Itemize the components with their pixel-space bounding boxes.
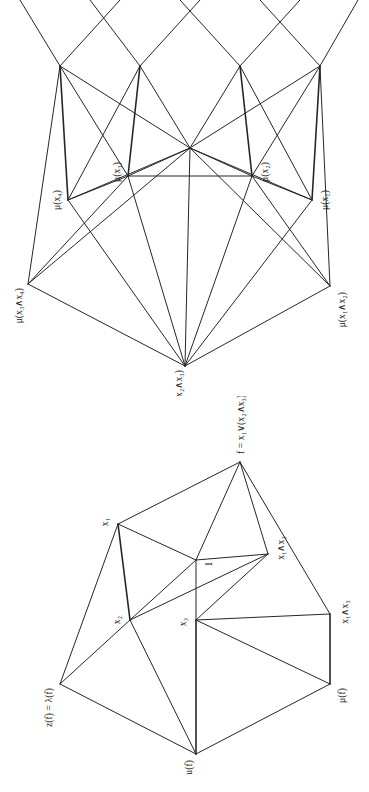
figure-function-lattice: z(f) = λ(f) u(f) μ(f) x₂ x₃ 1 x₁ x₁∧x₂ x… — [0, 396, 369, 792]
rotated-canvas-bottom: z(f) = λ(f) u(f) μ(f) x₂ x₃ 1 x₁ x₁∧x₂ x… — [0, 396, 369, 792]
rotated-canvas-top: μ(x₃∧x₄) μ(x₁∧x₂∧x₃) μ(x₁∧x₂) μ(x₄) μ(x₃… — [0, 0, 369, 396]
measure-lattice-svg: μ(x₃∧x₄) μ(x₁∧x₂∧x₃) μ(x₁∧x₂) μ(x₄) μ(x₃… — [0, 0, 369, 396]
node-label-mu-x2: μ(x₂) — [260, 162, 271, 182]
node-label-x1-x2: x₁∧x₂ — [276, 536, 286, 560]
node-label-mu-x1: μ(x₁) — [320, 190, 331, 210]
node-label-mu-f: μ(f) — [337, 688, 348, 703]
figure-measure-lattice: μ(x₃∧x₄) μ(x₁∧x₂∧x₃) μ(x₁∧x₂) μ(x₄) μ(x₃… — [0, 0, 369, 396]
node-label-x1: x₁ — [100, 518, 110, 526]
node-label-x3: x₃ — [178, 618, 188, 626]
node-label-x2: x₂ — [112, 616, 122, 624]
lattice-labels-bottom: z(f) = λ(f) u(f) μ(f) x₂ x₃ 1 x₁ x₁∧x₂ x… — [44, 396, 350, 775]
lattice-edges-bottom — [60, 462, 330, 754]
node-label-x1-x3: x₁∧x₃ — [340, 600, 350, 624]
node-label-f-def: f = x₁∨(x₂∧x₃) — [236, 396, 247, 454]
node-label-mu-x3-x4: μ(x₃∧x₄) — [14, 288, 25, 323]
function-lattice-svg: z(f) = λ(f) u(f) μ(f) x₂ x₃ 1 x₁ x₁∧x₂ x… — [0, 396, 369, 792]
node-label-mu-x3: μ(x₃) — [112, 162, 123, 182]
node-label-u-f: u(f) — [184, 760, 195, 775]
node-label-z-lambda: z(f) = λ(f) — [44, 688, 55, 727]
node-label-mu-x4: μ(x₄) — [52, 190, 63, 210]
diagram-page: μ(x₃∧x₄) μ(x₁∧x₂∧x₃) μ(x₁∧x₂) μ(x₄) μ(x₃… — [0, 0, 369, 792]
node-label-mu-x1-x2: μ(x₁∧x₂) — [337, 292, 348, 327]
lattice-edges-top — [20, 0, 358, 366]
node-label-mu-x1-x2-x3: μ(x₁∧x₂∧x₃) — [174, 370, 185, 396]
node-label-one: 1 — [204, 561, 214, 566]
